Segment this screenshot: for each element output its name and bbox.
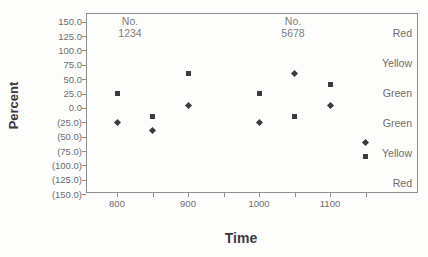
x-axis-title: Time bbox=[201, 230, 281, 246]
y-axis-tick-label: 75.0 bbox=[38, 59, 82, 70]
y-axis-tick-label: 100.0 bbox=[38, 45, 82, 56]
y-axis-tick bbox=[82, 50, 86, 51]
y-axis-tick-label: (75.0) bbox=[38, 146, 82, 157]
zone-label: Green bbox=[352, 117, 412, 129]
y-axis-tick bbox=[82, 108, 86, 109]
y-axis-tick-label: (50.0) bbox=[38, 131, 82, 142]
data-point-square bbox=[292, 114, 297, 119]
annotation-label: No. 1234 bbox=[100, 16, 160, 39]
zone-label: Red bbox=[352, 27, 412, 39]
zone-label: Red bbox=[352, 177, 412, 189]
data-point-square bbox=[328, 82, 333, 87]
x-axis-tick-label: 1100 bbox=[310, 198, 350, 209]
y-axis-tick-label: 25.0 bbox=[38, 88, 82, 99]
y-axis-tick-label: 125.0 bbox=[38, 31, 82, 42]
y-axis-tick bbox=[82, 165, 86, 166]
x-axis-tick bbox=[366, 193, 367, 197]
zone-label: Yellow bbox=[352, 147, 412, 159]
y-axis-tick-label: 150.0 bbox=[38, 16, 82, 27]
x-axis-tick bbox=[117, 193, 118, 197]
y-axis-tick bbox=[82, 137, 86, 138]
x-axis-tick-label: 1000 bbox=[239, 198, 279, 209]
x-axis-tick bbox=[259, 193, 260, 197]
zone-label: Green bbox=[352, 87, 412, 99]
x-axis-tick bbox=[188, 193, 189, 197]
data-point-square bbox=[115, 91, 120, 96]
y-axis-tick-label: 0.0 bbox=[38, 102, 82, 113]
scatter-chart-figure: Percent 150.0125.0100.075.050.025.00.0(2… bbox=[0, 0, 428, 257]
y-axis-tick bbox=[82, 180, 86, 181]
y-axis-tick bbox=[82, 22, 86, 23]
annotation-label: No. 5678 bbox=[263, 16, 323, 39]
y-axis-tick bbox=[82, 65, 86, 66]
x-axis-tick bbox=[295, 193, 296, 197]
y-axis-tick-label: (25.0) bbox=[38, 117, 82, 128]
x-axis-tick bbox=[153, 193, 154, 197]
y-axis-tick-label: (150.0) bbox=[38, 189, 82, 200]
y-axis-tick bbox=[82, 79, 86, 80]
data-point-square bbox=[257, 91, 262, 96]
x-axis-tick-label: 900 bbox=[168, 198, 208, 209]
data-point-square bbox=[186, 71, 191, 76]
y-axis-tick bbox=[82, 94, 86, 95]
y-axis-title: Percent bbox=[0, 40, 28, 170]
data-point-square bbox=[150, 114, 155, 119]
y-axis-tick bbox=[82, 122, 86, 123]
y-axis-tick-label: 50.0 bbox=[38, 74, 82, 85]
x-axis-tick bbox=[224, 193, 225, 197]
zone-label: Yellow bbox=[352, 57, 412, 69]
y-axis-tick bbox=[82, 194, 86, 195]
x-axis-tick bbox=[330, 193, 331, 197]
y-axis-tick-label: (125.0) bbox=[38, 174, 82, 185]
x-axis-tick-label: 800 bbox=[97, 198, 137, 209]
y-axis-tick bbox=[82, 151, 86, 152]
y-axis-title-text: Percent bbox=[7, 81, 22, 129]
plot-area bbox=[86, 13, 418, 193]
y-axis-tick-label: (100.0) bbox=[38, 160, 82, 171]
y-axis-tick bbox=[82, 36, 86, 37]
